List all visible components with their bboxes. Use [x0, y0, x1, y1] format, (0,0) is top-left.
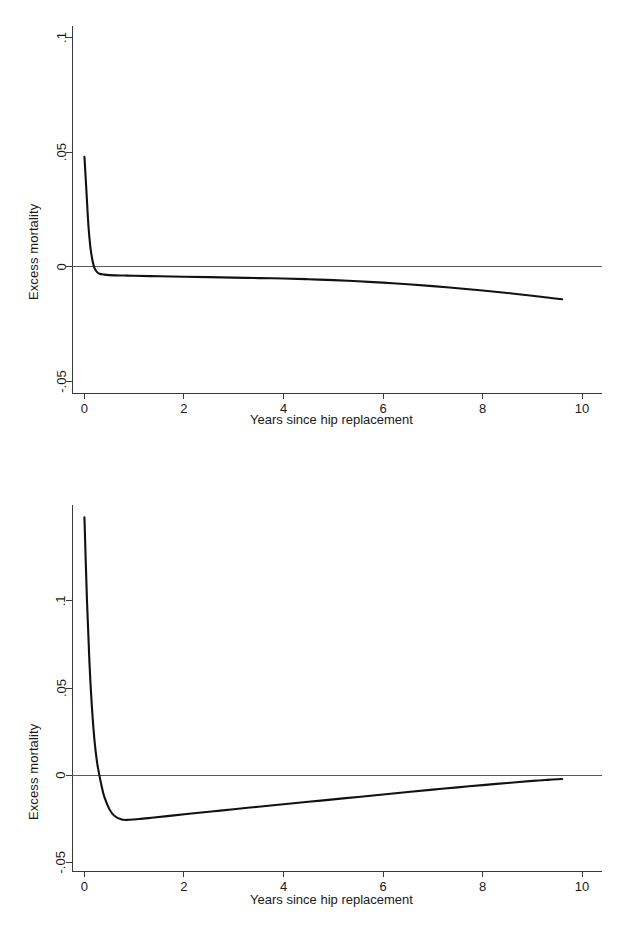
chart-panel-top: .1.050-.050246810 Excess mortality Years…: [0, 0, 629, 460]
y-axis-label-bottom: Excess mortality: [26, 724, 41, 820]
chart-panel-bottom: .1.050-.050246810 Excess mortality Years…: [0, 460, 629, 945]
plot-area-top: .1.050-.050246810: [0, 0, 629, 420]
y-tick-label: 0: [54, 263, 69, 270]
y-tick-label: .1: [54, 32, 69, 43]
y-tick-label: .1: [54, 595, 69, 606]
y-axis-label-top: Excess mortality: [26, 204, 41, 300]
x-axis-label-top: Years since hip replacement: [0, 412, 629, 427]
x-axis-label-bottom-text: Years since hip replacement: [216, 892, 413, 907]
y-tick-label: -.05: [54, 851, 69, 873]
y-tick-label: .05: [54, 679, 69, 697]
data-curve-svg-top: [84, 157, 562, 299]
y-tick-label: -.05: [54, 370, 69, 392]
x-axis-label-top-text: Years since hip replacement: [216, 412, 413, 427]
y-tick-label: .05: [54, 143, 69, 161]
data-curve-svg-bottom: [84, 517, 562, 820]
figure-container: .1.050-.050246810 Excess mortality Years…: [0, 0, 629, 945]
y-tick-label: 0: [54, 772, 69, 779]
plot-area-bottom: .1.050-.050246810: [0, 460, 629, 900]
x-axis-label-bottom: Years since hip replacement: [0, 892, 629, 907]
